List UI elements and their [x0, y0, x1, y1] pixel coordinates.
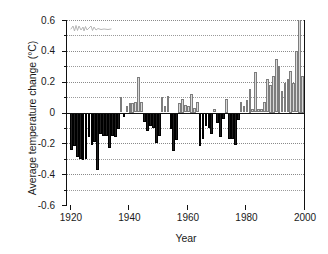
plot-area: 0.60.40.20-0.2-0.4-0.6 19201940196019802…: [66, 20, 305, 205]
y-axis-tick: -0.6: [62, 205, 67, 206]
bar: [210, 113, 213, 135]
bar: [167, 96, 170, 113]
y-axis-tick-label: -0.4: [38, 169, 55, 180]
y-axis-tick: 0.2: [62, 82, 67, 83]
y-axis-tick-label: 0.6: [41, 15, 55, 26]
gridline: [67, 66, 304, 67]
bar: [237, 113, 240, 121]
y-axis-tick-label: -0.2: [38, 138, 55, 149]
gridline: [67, 35, 304, 36]
x-axis-tick-label: 1960: [170, 212, 206, 223]
y-axis-tick: -0.2: [62, 143, 67, 144]
y-axis-minor-tick: [64, 128, 67, 129]
bar: [175, 113, 178, 141]
bar: [117, 113, 120, 130]
x-axis-tick: 2000: [304, 205, 305, 210]
x-axis-tick-label: 1940: [111, 212, 147, 223]
bar: [158, 113, 161, 136]
x-axis-tick: 1980: [245, 205, 246, 210]
x-axis-tick-label: 1920: [53, 212, 89, 223]
y-axis-tick: 0.6: [62, 20, 67, 21]
bar: [196, 102, 199, 113]
y-axis-tick: 0.4: [62, 51, 67, 52]
y-axis-tick: -0.4: [62, 174, 67, 175]
bar: [301, 76, 304, 113]
zero-baseline: [67, 113, 304, 114]
y-axis-tick-label: 0.4: [41, 45, 55, 56]
y-axis-minor-tick: [64, 66, 67, 67]
x-axis-tick-label: 1980: [228, 212, 264, 223]
y-axis-tick-label: -0.6: [38, 200, 55, 211]
gridline: [67, 159, 304, 160]
x-axis-tick: 1960: [187, 205, 188, 210]
y-axis-minor-tick: [64, 97, 67, 98]
x-axis-title: Year: [66, 232, 306, 244]
y-axis-minor-tick: [64, 35, 67, 36]
x-axis-tick: 1920: [70, 205, 71, 210]
gridline: [67, 190, 304, 191]
gridline: [67, 143, 304, 144]
x-axis-tick-label: 2000: [287, 212, 323, 223]
y-axis-minor-tick: [64, 159, 67, 160]
bar: [225, 99, 228, 113]
temperature-anomaly-bar-chart: Average temperature change (°C) Year 0.6…: [0, 0, 328, 254]
x-axis-tick: 1940: [128, 205, 129, 210]
gridline: [67, 20, 304, 21]
y-axis-minor-tick: [64, 190, 67, 191]
plot-inner: [67, 20, 304, 205]
y-axis-tick-label: 0.2: [41, 76, 55, 87]
y-axis-title: Average temperature change (°C): [26, 23, 38, 213]
gridline: [67, 174, 304, 175]
bar: [140, 102, 143, 113]
gridline: [67, 51, 304, 52]
bar: [254, 72, 257, 112]
bar: [120, 97, 123, 112]
y-axis-tick-label: 0: [49, 107, 55, 118]
